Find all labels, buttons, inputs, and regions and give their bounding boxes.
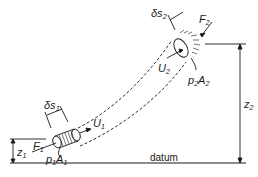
delta-s2-dimension [168,12,183,30]
label-u1: U1 [93,117,105,130]
label-f2: F2 [199,13,210,26]
label-datum: datum [150,152,178,163]
label-delta-s2: δs2 [151,7,167,20]
element-1-cylinder [51,128,82,149]
stream-tube-diagram: δs1 δs2 F1 F2 U1 U2 p1A1 p2A2 z1 z2 datu… [0,0,258,177]
label-f1: F1 [33,140,44,153]
label-z1: z1 [16,146,27,159]
z2-dimension [205,44,246,163]
streamtube-lower-boundary [80,62,186,146]
label-p2a2: p2A2 [187,74,209,87]
p2a2-leader [191,58,196,70]
streamtube-upper-boundary [78,40,172,128]
element-2-cylinder [171,30,200,60]
label-p1a1: p1A1 [45,153,67,166]
label-u2: U2 [158,62,170,75]
label-z2: z2 [243,98,254,111]
label-delta-s1: δs1 [44,99,60,112]
